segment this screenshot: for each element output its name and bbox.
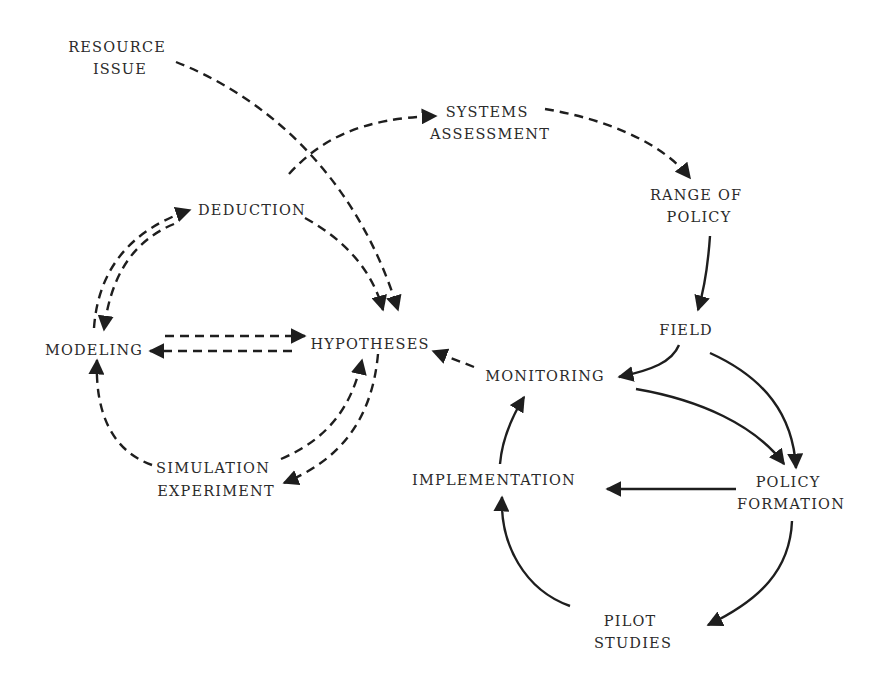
edge-implementation-to-monitoring <box>500 397 524 464</box>
policy-research-cycle-diagram: RESOURCE ISSUE SYSTEMS ASSESSMENT RANGE … <box>0 0 888 678</box>
edge-resource-issue-to-hypotheses <box>176 62 398 310</box>
edge-simulation-to-modeling <box>97 360 152 465</box>
edge-range-of-policy-to-field <box>698 236 710 310</box>
node-systems-assessment: SYSTEMS ASSESSMENT <box>429 104 550 142</box>
node-monitoring: MONITORING <box>485 368 605 384</box>
node-deduction: DEDUCTION <box>198 202 306 218</box>
edge-hypotheses-to-simulation <box>284 354 378 483</box>
edge-policy-formation-to-pilot-studies <box>708 521 792 625</box>
node-modeling: MODELING <box>45 342 143 358</box>
edge-deduction-to-modeling <box>104 224 174 330</box>
node-pilot-studies: PILOT STUDIES <box>594 613 672 651</box>
node-policy-formation: POLICY FORMATION <box>737 474 845 512</box>
edge-field-to-monitoring <box>619 345 679 377</box>
edge-deduction-to-hypotheses <box>305 218 383 310</box>
edge-simulation-to-hypotheses <box>281 360 362 459</box>
edges <box>94 62 796 625</box>
edge-field-to-policy-formation <box>710 353 796 468</box>
edge-monitoring-to-hypotheses <box>433 351 474 367</box>
node-range-of-policy: RANGE OF POLICY <box>650 187 748 225</box>
node-field: FIELD <box>659 322 713 338</box>
edge-monitoring-to-policy-formation <box>636 389 784 464</box>
nodes: RESOURCE ISSUE SYSTEMS ASSESSMENT RANGE … <box>45 39 845 651</box>
node-hypotheses: HYPOTHESES <box>310 336 429 352</box>
node-simulation-experiment: SIMULATION EXPERIMENT <box>156 460 276 499</box>
edge-to-systems-assessment <box>289 116 436 174</box>
node-resource-issue: RESOURCE ISSUE <box>68 39 172 77</box>
edge-systems-assessment-to-range-of-policy <box>545 109 690 178</box>
node-implementation: IMPLEMENTATION <box>412 472 576 488</box>
edge-pilot-studies-to-implementation <box>502 497 570 606</box>
